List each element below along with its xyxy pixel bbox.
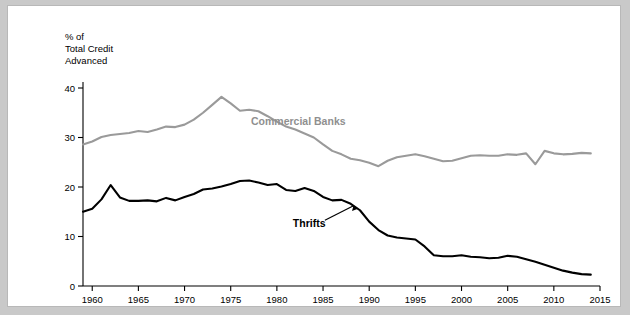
y-axis-label-line: % of <box>65 31 84 42</box>
y-tick-label: 10 <box>64 231 75 242</box>
y-axis-label-line: Advanced <box>65 55 107 66</box>
thrifts-leader-line <box>325 206 354 220</box>
commercial-banks-label: Commercial Banks <box>251 115 346 127</box>
x-tick-label: 2000 <box>451 294 472 305</box>
y-tick-label: 30 <box>64 132 75 143</box>
y-tick-label: 20 <box>64 182 75 193</box>
chart-plot-area: % ofTotal CreditAdvanced0102030401960196… <box>8 6 620 306</box>
x-tick-label: 1970 <box>174 294 195 305</box>
x-tick-label: 1985 <box>312 294 333 305</box>
series-line-commercial-banks <box>83 97 591 166</box>
x-tick-label: 1965 <box>128 294 149 305</box>
line-chart: % ofTotal CreditAdvanced0102030401960196… <box>8 6 620 306</box>
x-tick-label: 1980 <box>266 294 287 305</box>
y-tick-label: 40 <box>64 83 75 94</box>
x-tick-label: 1990 <box>359 294 380 305</box>
y-axis-label-line: Total Credit <box>65 43 113 54</box>
thrifts-label: Thrifts <box>293 217 326 229</box>
chart-panel: % ofTotal CreditAdvanced0102030401960196… <box>8 6 620 306</box>
x-tick-label: 2010 <box>543 294 564 305</box>
x-tick-label: 1995 <box>405 294 426 305</box>
y-tick-label: 0 <box>70 281 75 292</box>
x-tick-label: 2005 <box>497 294 518 305</box>
x-tick-label: 2015 <box>589 294 610 305</box>
x-tick-label: 1960 <box>82 294 103 305</box>
x-tick-label: 1975 <box>220 294 241 305</box>
series-line-thrifts <box>83 181 591 275</box>
